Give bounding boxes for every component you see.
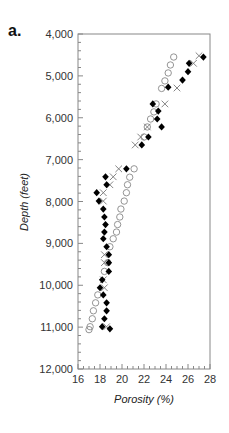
diamond-marker [99, 276, 106, 283]
diamond-marker [103, 299, 110, 306]
porosity-depth-chart: 4,0005,0006,0007,0008,0009,00010,00011,0… [0, 0, 229, 433]
cross-marker [144, 124, 151, 131]
series-open-circle [86, 54, 177, 333]
circle-marker [124, 182, 130, 188]
diamond-marker [165, 84, 172, 91]
circle-marker [162, 78, 168, 84]
diamond-marker [139, 141, 146, 148]
diamond-marker [100, 205, 107, 212]
cross-marker [132, 142, 139, 149]
circle-marker [147, 116, 153, 122]
diamond-marker [101, 228, 108, 235]
diamond-marker [154, 115, 161, 122]
diamond-marker [123, 165, 130, 172]
y-tick-label: 4,000 [45, 28, 73, 40]
series-cross [100, 52, 202, 330]
diamond-marker [158, 123, 165, 130]
cross-marker [137, 134, 144, 141]
y-axis-label: Depth (feet) [18, 173, 30, 231]
series-filled-diamond [93, 53, 206, 332]
diamond-marker [103, 181, 110, 188]
y-tick-label: 8,000 [45, 196, 73, 208]
cross-marker [100, 189, 107, 196]
x-tick-label: 22 [138, 373, 150, 385]
diamond-marker [179, 76, 186, 83]
data-points [86, 52, 207, 332]
circle-marker [165, 70, 171, 76]
y-tick-label: 11,000 [40, 321, 73, 333]
diamond-marker [93, 189, 100, 196]
circle-marker [158, 85, 164, 91]
diamond-marker [150, 100, 157, 107]
circle-marker [167, 62, 173, 68]
x-tick-label: 24 [160, 373, 172, 385]
diamond-marker [155, 107, 162, 114]
cross-marker [174, 85, 181, 92]
circle-marker [131, 166, 137, 172]
circle-marker [117, 214, 123, 220]
plot-axes: 4,0005,0006,0007,0008,0009,00010,00011,0… [39, 28, 216, 385]
y-tick-label: 10,000 [39, 279, 73, 291]
x-axis-label: Porosity (%) [114, 393, 174, 405]
y-tick-label: 9,000 [45, 237, 73, 249]
circle-marker [90, 308, 96, 314]
circle-marker [127, 174, 133, 180]
cross-marker [110, 173, 117, 180]
diamond-marker [102, 173, 109, 180]
x-tick-label: 20 [116, 373, 128, 385]
x-tick-label: 26 [182, 373, 194, 385]
circle-marker [92, 300, 98, 306]
circle-marker [171, 54, 177, 60]
circle-marker [113, 229, 119, 235]
diamond-marker [103, 243, 110, 250]
y-tick-label: 6,000 [45, 112, 73, 124]
diamond-marker [101, 315, 108, 322]
cross-marker [115, 166, 122, 173]
y-tick-label: 7,000 [45, 154, 73, 166]
diamond-marker [101, 213, 108, 220]
y-tick-label: 12,000 [39, 363, 73, 375]
diamond-marker [100, 291, 107, 298]
x-tick-label: 28 [204, 373, 216, 385]
x-tick-label: 18 [94, 373, 106, 385]
circle-marker [114, 221, 120, 227]
circle-marker [118, 206, 124, 212]
circle-marker [89, 316, 95, 322]
circle-marker [121, 198, 127, 204]
diamond-marker [103, 307, 110, 314]
cross-marker [162, 101, 169, 108]
circle-marker [123, 190, 129, 196]
diamond-marker [100, 235, 107, 242]
circle-marker [110, 236, 116, 242]
diamond-marker [185, 68, 192, 75]
diamond-marker [102, 221, 109, 228]
y-tick-label: 5,000 [45, 70, 73, 82]
x-tick-label: 16 [72, 373, 84, 385]
diamond-marker [200, 53, 207, 60]
